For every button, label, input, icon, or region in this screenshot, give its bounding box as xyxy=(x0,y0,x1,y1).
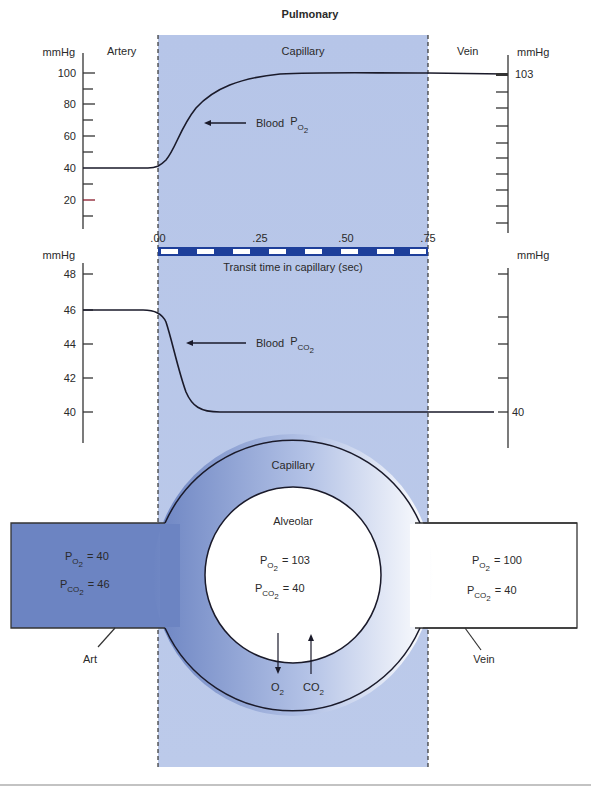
diagram-title: Pulmonary xyxy=(282,8,340,20)
pulmonary-diagram: Pulmonary Artery Capillary Vein mmHg mmH… xyxy=(0,0,591,791)
po2-tick-40: 40 xyxy=(64,162,76,174)
pco2-tick-48: 48 xyxy=(64,268,76,280)
po2-right-unit: mmHg xyxy=(517,46,549,58)
po2-tick-100: 100 xyxy=(58,67,76,79)
alveolar-schematic xyxy=(11,434,577,716)
po2-right-value: 103 xyxy=(515,68,533,80)
time-tick-0: .00 xyxy=(150,232,165,244)
time-tick-50: .50 xyxy=(338,232,353,244)
time-tick-75: .75 xyxy=(420,232,435,244)
art-label: Art xyxy=(83,653,97,665)
po2-tick-60: 60 xyxy=(64,130,76,142)
pco2-tick-42: 42 xyxy=(64,372,76,384)
vein-region-label: Vein xyxy=(457,45,478,57)
po2-right-ticks xyxy=(496,92,508,223)
pco2-tick-46: 46 xyxy=(64,304,76,316)
po2-tick-20: 20 xyxy=(64,194,76,206)
capillary-region-label: Capillary xyxy=(282,45,325,57)
po2-tick-80: 80 xyxy=(64,98,76,110)
artery-region-label: Artery xyxy=(107,45,137,57)
pco2-right-unit: mmHg xyxy=(517,249,549,261)
time-tick-25: .25 xyxy=(252,232,267,244)
po2-left-ticks xyxy=(83,73,95,216)
vein-label: Vein xyxy=(473,653,494,665)
vein-box xyxy=(420,523,577,628)
alveolus xyxy=(205,487,381,663)
artery-box xyxy=(11,523,171,628)
ring-capillary-label: Capillary xyxy=(272,459,315,471)
po2-left-unit: mmHg xyxy=(43,46,75,58)
pco2-left-unit: mmHg xyxy=(43,249,75,261)
pco2-tick-40: 40 xyxy=(64,406,76,418)
transit-time-bar xyxy=(158,247,428,256)
pco2-tick-44: 44 xyxy=(64,338,76,350)
pco2-right-value: 40 xyxy=(512,406,524,418)
time-axis-label: Transit time in capillary (sec) xyxy=(223,261,363,273)
alveolar-label: Alveolar xyxy=(273,515,313,527)
